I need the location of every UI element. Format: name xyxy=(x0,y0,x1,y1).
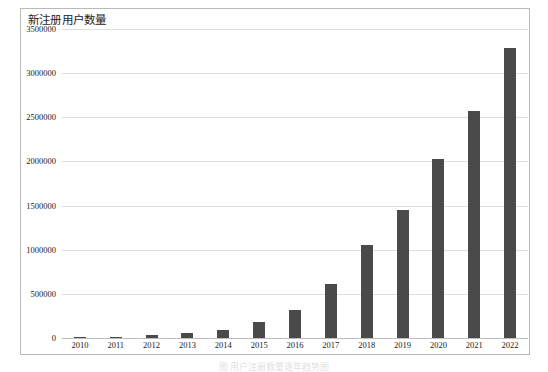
gridline xyxy=(62,338,528,339)
figure-container: 新注册用户数量 05000001000000150000020000002500… xyxy=(0,0,548,372)
x-tick-label: 2021 xyxy=(466,340,483,350)
bar-slot xyxy=(361,29,373,338)
y-tick-label: 2000000 xyxy=(26,156,56,166)
bar[interactable] xyxy=(361,245,373,338)
bar[interactable] xyxy=(217,330,229,338)
bar[interactable] xyxy=(468,111,480,338)
bar[interactable] xyxy=(504,48,516,338)
bar-slot xyxy=(181,29,193,338)
bar-slot xyxy=(253,29,265,338)
y-tick-label: 1000000 xyxy=(26,245,56,255)
x-tick-label: 2022 xyxy=(502,340,519,350)
bar-slot xyxy=(397,29,409,338)
bar-slot xyxy=(289,29,301,338)
figure-caption: 图 用户注册数量逐年趋势图 xyxy=(0,360,548,372)
x-tick-label: 2014 xyxy=(215,340,232,350)
bar[interactable] xyxy=(432,159,444,338)
x-tick-label: 2012 xyxy=(143,340,160,350)
x-tick-label: 2015 xyxy=(251,340,268,350)
y-tick-label: 3000000 xyxy=(26,68,56,78)
x-tick-label: 2016 xyxy=(287,340,304,350)
y-tick-label: 3500000 xyxy=(26,24,56,34)
bar-slot xyxy=(110,29,122,338)
bar[interactable] xyxy=(74,337,86,338)
bar[interactable] xyxy=(325,284,337,338)
y-tick-label: 0 xyxy=(52,333,56,343)
bar-slot xyxy=(432,29,444,338)
x-tick-label: 2017 xyxy=(322,340,339,350)
bar[interactable] xyxy=(289,310,301,338)
plot-area xyxy=(62,29,528,338)
x-tick-label: 2011 xyxy=(107,340,124,350)
y-axis-labels: 0500000100000015000002000000250000030000… xyxy=(0,29,56,338)
bar[interactable] xyxy=(146,335,158,338)
bar-slot xyxy=(504,29,516,338)
y-tick-label: 2500000 xyxy=(26,112,56,122)
bar[interactable] xyxy=(181,333,193,338)
bar-slot xyxy=(468,29,480,338)
x-tick-label: 2013 xyxy=(179,340,196,350)
x-tick-label: 2019 xyxy=(394,340,411,350)
bar-slot xyxy=(325,29,337,338)
bar-slot xyxy=(146,29,158,338)
bar[interactable] xyxy=(397,210,409,338)
bar-slot xyxy=(74,29,86,338)
y-tick-label: 500000 xyxy=(31,289,57,299)
x-tick-label: 2010 xyxy=(71,340,88,350)
bar-slot xyxy=(217,29,229,338)
y-tick-label: 1500000 xyxy=(26,201,56,211)
x-tick-label: 2018 xyxy=(358,340,375,350)
bar[interactable] xyxy=(110,337,122,338)
x-axis-labels: 2010201120122013201420152016201720182019… xyxy=(62,340,528,354)
bar[interactable] xyxy=(253,322,265,338)
x-tick-label: 2020 xyxy=(430,340,447,350)
